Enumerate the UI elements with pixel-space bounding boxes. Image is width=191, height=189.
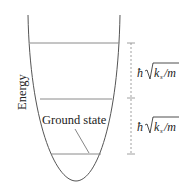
potential-curve — [28, 15, 120, 181]
ground-state-pointer — [75, 129, 89, 153]
svg-text:s: s — [160, 73, 163, 81]
spacing-label-lower: ħ k s /m — [137, 117, 179, 135]
svg-text:ħ: ħ — [137, 120, 143, 134]
svg-text:/m: /m — [163, 120, 176, 134]
svg-text:ħ: ħ — [137, 66, 143, 80]
energy-axis-label: Energy — [15, 73, 29, 110]
spacing-label-upper: ħ k s /m — [137, 63, 179, 81]
ground-state-label: Ground state — [42, 113, 107, 127]
energy-diagram: Energy Ground state ħ k s /m ħ k s /m — [0, 0, 191, 189]
svg-text:s: s — [160, 127, 163, 135]
svg-text:/m: /m — [163, 66, 176, 80]
